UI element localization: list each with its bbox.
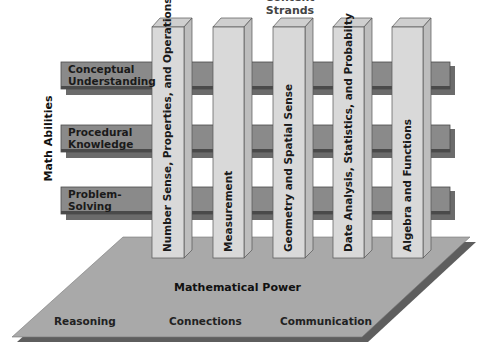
strand-label-geometry: Geometry and Spatial Sense: [282, 84, 294, 252]
ability-label-line: Understanding: [68, 75, 156, 87]
math-framework-diagram: Content Strands Math Abilities Conceptua…: [0, 0, 487, 355]
ability-label-line: Conceptual: [68, 63, 156, 75]
diagram-graphics: [0, 0, 487, 355]
ability-label-conceptual: Conceptual Understanding: [68, 63, 156, 87]
strand-label-measurement: Measurement: [222, 171, 234, 252]
mathematical-power-title: Mathematical Power: [150, 281, 325, 294]
ability-label-problem-solving: Problem- Solving: [68, 188, 122, 212]
ability-label-line: Knowledge: [68, 138, 133, 150]
ability-label-procedural: Procedural Knowledge: [68, 126, 133, 150]
ability-label-line: Procedural: [68, 126, 133, 138]
strand-label-number-sense: Number Sense, Properties, and Operations: [161, 0, 173, 252]
power-label-connections: Connections: [169, 315, 242, 327]
ability-label-line: Solving: [68, 200, 122, 212]
ability-label-line: Problem-: [68, 188, 122, 200]
content-strands-title: Content Strands: [240, 0, 340, 17]
power-label-communication: Communication: [280, 315, 372, 327]
math-abilities-axis-label: Math Abilities: [42, 89, 55, 189]
power-label-reasoning: Reasoning: [54, 315, 116, 327]
strand-label-data-analysis: Date Analysis, Statistics, and Probabilt…: [342, 13, 354, 252]
strand-label-algebra: Algebra and Functions: [401, 119, 413, 252]
